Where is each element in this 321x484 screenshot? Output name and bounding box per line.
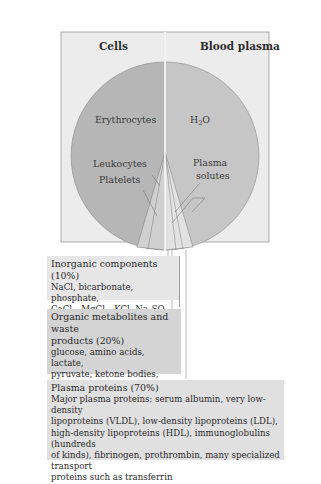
organic-metabolites-box: Organic metabolites and waste products (…: [47, 309, 181, 374]
organic-title-1: Organic metabolites and waste: [51, 311, 177, 335]
plasma-solutes-label-2: solutes: [196, 170, 230, 181]
water-h: H: [190, 114, 198, 125]
plasma-proteins-box: Plasma proteins (70%) Major plasma prote…: [47, 380, 284, 460]
proteins-line-4: of kinds), fibrinogen, prothrombin, many…: [51, 450, 280, 472]
inorganic-title: Inorganic components (10%): [51, 258, 175, 282]
organic-line-2: pyruvate, ketone bodies,: [51, 369, 177, 380]
platelets-label: Platelets: [99, 174, 141, 185]
water-o: O: [202, 114, 210, 125]
proteins-line-2: lipoproteins (VLDL), low-density lipopro…: [51, 416, 280, 427]
cells-title: Cells: [99, 40, 128, 52]
proteins-line-1: Major plasma proteins: serum albumin, ve…: [51, 394, 280, 416]
erythrocytes-label: Erythrocytes: [95, 114, 156, 125]
organic-line-1: glucose, amino acids, lactate,: [51, 347, 177, 369]
blood-plasma-title: Blood plasma: [200, 40, 280, 52]
leukocytes-label: Leukocytes: [93, 158, 147, 169]
inorganic-box-border: [179, 256, 180, 307]
organic-title-2: products (20%): [51, 335, 177, 347]
proteins-title: Plasma proteins (70%): [51, 382, 280, 394]
proteins-line-5: proteins such as transferrin: [51, 472, 280, 483]
plasma-solutes-label-1: Plasma: [193, 157, 228, 168]
inorganic-components-box: Inorganic components (10%) NaCl, bicarbo…: [47, 256, 179, 300]
inorganic-line-1: NaCl, bicarbonate, phosphate,: [51, 282, 175, 304]
proteins-line-3: high-density lipoproteins (HDL), immunog…: [51, 428, 280, 450]
